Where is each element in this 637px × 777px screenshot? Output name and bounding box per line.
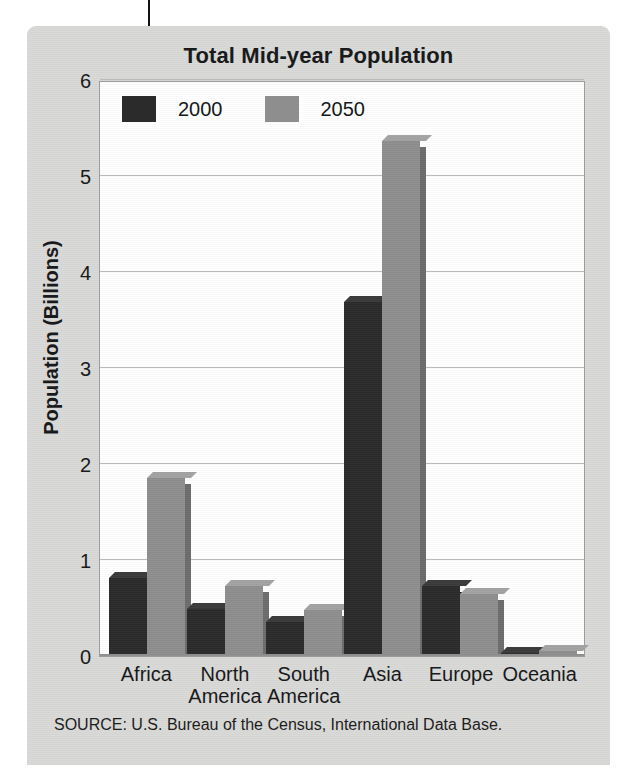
chart-legend: 20002050 (122, 96, 407, 122)
y-tick-label: 2 (51, 454, 91, 477)
x-category-label-line: America (264, 686, 343, 708)
bar (187, 609, 225, 656)
bar-side-face (498, 600, 504, 656)
bar-top-face (225, 580, 275, 586)
y-tick-label: 1 (51, 550, 91, 573)
bar-group (500, 82, 578, 656)
legend-swatch-icon (122, 96, 156, 122)
y-tick-label: 5 (51, 166, 91, 189)
bar (225, 586, 263, 656)
x-category-label-line: Europe (422, 664, 501, 686)
y-tick-label: 0 (51, 646, 91, 669)
x-category-label-line: South (264, 664, 343, 686)
x-category-label-line: North (186, 664, 265, 686)
legend-entry: 2000 (122, 96, 223, 122)
x-category-label-line: Asia (343, 664, 422, 686)
legend-entry: 2050 (265, 96, 366, 122)
bar-group (343, 82, 421, 656)
bar (147, 478, 185, 656)
x-category-label: Asia (343, 664, 422, 707)
x-category-label: SouthAmerica (264, 664, 343, 707)
y-axis-title: Population (Billions) (40, 188, 63, 488)
x-axis-category-labels: AfricaNorthAmericaSouthAmericaAsiaEurope… (99, 664, 585, 707)
bar-top-face (382, 135, 432, 141)
bar-group (421, 82, 499, 656)
y-tick-label: 6 (51, 70, 91, 93)
y-tick-label: 4 (51, 262, 91, 285)
bar (344, 302, 382, 656)
x-category-label: Africa (107, 664, 186, 707)
bar-side-face (420, 147, 426, 656)
bar-top-face (539, 645, 589, 651)
bar (109, 578, 147, 656)
x-category-label-line: Oceania (500, 664, 579, 686)
bar (460, 594, 498, 656)
gridline (100, 79, 584, 80)
x-category-label-line: Africa (107, 664, 186, 686)
legend-label: 2000 (178, 98, 223, 121)
bar (304, 610, 342, 656)
chart-title: Total Mid-year Population (27, 43, 610, 69)
bar-top-face (422, 580, 472, 586)
x-category-label: Europe (422, 664, 501, 707)
bar-top-face (460, 588, 510, 594)
x-category-label: NorthAmerica (186, 664, 265, 707)
bar (422, 586, 460, 656)
bar (382, 141, 420, 656)
x-category-label-line: America (186, 686, 265, 708)
bar-group (186, 82, 264, 656)
x-category-label: Oceania (500, 664, 579, 707)
legend-swatch-icon (265, 96, 299, 122)
bar (266, 622, 304, 656)
source-note: SOURCE: U.S. Bureau of the Census, Inter… (54, 716, 614, 734)
y-tick-label: 3 (51, 358, 91, 381)
bar-group (265, 82, 343, 656)
x-axis-baseline (100, 654, 584, 656)
plot-area: 20002050 (99, 81, 585, 657)
bar-group (108, 82, 186, 656)
figure-panel: Total Mid-year Population Population (Bi… (27, 26, 610, 765)
bar-groups (100, 82, 584, 656)
bar-top-face (147, 472, 197, 478)
legend-label: 2050 (321, 98, 366, 121)
